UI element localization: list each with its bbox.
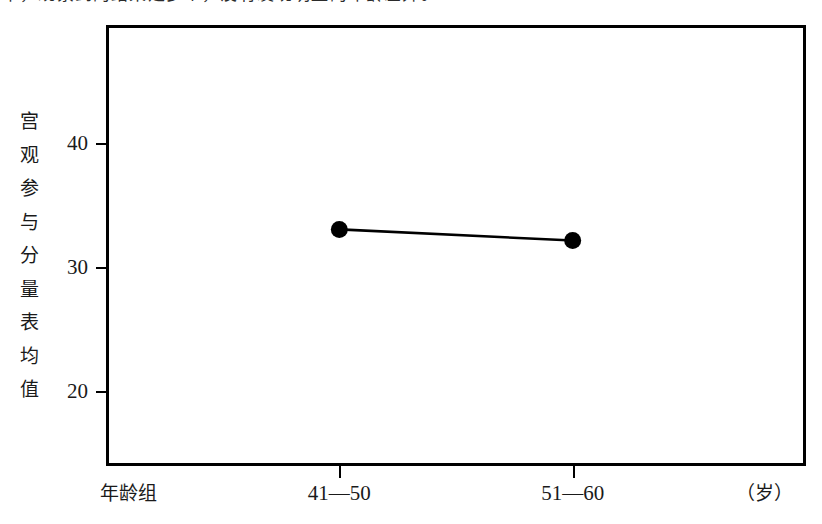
- y-tick-label: 40: [48, 133, 88, 154]
- y-tick-mark: [96, 267, 107, 269]
- y-tick-label: 20: [48, 381, 88, 402]
- chart-plot-frame: [106, 25, 806, 466]
- y-axis-title-char: 量: [12, 273, 46, 307]
- x-axis-title: 年龄组: [100, 482, 157, 505]
- y-tick-label: 30: [48, 257, 88, 278]
- y-axis-title-char: 表: [12, 306, 46, 340]
- y-tick-mark: [96, 391, 107, 393]
- scanned-text-line: 中，观察到的结果是多个，没有发现明显的年龄差异。: [2, 0, 439, 3]
- x-tick-label: 51—60: [503, 482, 643, 505]
- x-axis-unit-label: （岁）: [736, 482, 793, 505]
- x-tick-mark: [339, 463, 341, 478]
- y-tick-label-wrap: 30: [44, 257, 88, 278]
- x-tick-mark: [573, 463, 575, 478]
- y-axis-title: 宫 观 参 与 分 量 表 均 值: [12, 105, 46, 407]
- x-tick-label: 41—50: [269, 482, 409, 505]
- y-tick-label-wrap: 20: [44, 381, 88, 402]
- y-axis-title-char: 与: [12, 206, 46, 240]
- y-axis-title-char: 宫: [12, 105, 46, 139]
- y-tick-label-wrap: 40: [44, 133, 88, 154]
- y-axis-title-char: 观: [12, 139, 46, 173]
- y-tick-mark: [96, 143, 107, 145]
- y-axis-title-char: 参: [12, 172, 46, 206]
- y-axis-title-char: 值: [12, 373, 46, 407]
- y-axis-title-char: 均: [12, 340, 46, 374]
- scanned-text-strip: 中，观察到的结果是多个，没有发现明显的年龄差异。: [0, 0, 822, 14]
- y-axis-title-char: 分: [12, 239, 46, 273]
